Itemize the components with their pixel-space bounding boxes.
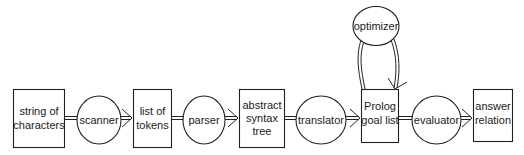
svg-text:translator: translator (298, 114, 344, 126)
svg-text:tree: tree (253, 125, 272, 137)
compiler-pipeline-diagram: string of characters scanner list of tok… (0, 0, 524, 155)
arrowhead-icon (350, 109, 360, 127)
svg-text:string of: string of (19, 105, 59, 117)
svg-text:Prolog: Prolog (364, 100, 396, 112)
edge-prolog-to-optimizer (358, 40, 365, 89)
svg-text:evaluator: evaluator (414, 114, 460, 126)
edge-ast-to-translator (285, 117, 296, 120)
svg-text:syntax: syntax (246, 112, 278, 124)
svg-text:tokens: tokens (136, 119, 169, 131)
edge-prolog-to-evaluator (399, 117, 412, 120)
svg-text:list of: list of (140, 105, 167, 117)
node-prolog-goal-list: Prolog goal list (361, 90, 398, 143)
node-list-of-tokens: list of tokens (134, 90, 172, 148)
edge-translator-to-prolog (346, 109, 360, 127)
node-scanner: scanner (77, 96, 121, 144)
arrowhead-icon (228, 109, 238, 127)
node-string-of-characters: string of characters (13, 90, 65, 148)
svg-text:parser: parser (188, 114, 220, 126)
arrowhead-icon (122, 109, 132, 127)
edge-evaluator-to-answer (461, 109, 472, 127)
svg-text:relation: relation (475, 114, 511, 126)
svg-text:optimizer: optimizer (354, 20, 399, 32)
edge-optimizer-to-prolog (388, 39, 407, 89)
node-optimizer: optimizer (353, 7, 399, 46)
edge-scanner-to-tokens (121, 109, 132, 127)
svg-text:characters: characters (13, 119, 65, 131)
svg-text:scanner: scanner (79, 114, 118, 126)
node-parser: parser (183, 96, 225, 144)
edge-string-to-scanner (65, 117, 77, 120)
node-answer-relation: answer relation (474, 90, 513, 142)
svg-text:answer: answer (475, 100, 511, 112)
node-translator: translator (296, 96, 346, 144)
node-abstract-syntax-tree: abstract syntax tree (240, 90, 285, 148)
svg-text:abstract: abstract (242, 99, 281, 111)
svg-text:goal list: goal list (361, 114, 398, 126)
node-evaluator: evaluator (412, 96, 461, 144)
edge-tokens-to-parser (172, 117, 183, 120)
arrowhead-icon (462, 109, 472, 127)
edge-parser-to-ast (225, 109, 238, 127)
